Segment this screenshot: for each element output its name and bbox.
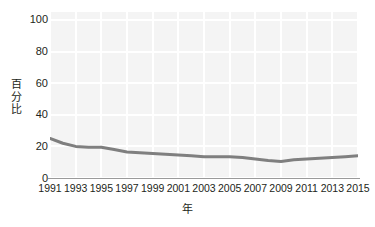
plot-area: [50, 12, 358, 178]
x-axis-line: [48, 178, 360, 179]
y-axis-title: 百 分 比: [8, 78, 24, 116]
x-tick-label: 2015: [343, 182, 373, 195]
x-axis-tick-labels: 1991199319951997199920012003200520072009…: [0, 182, 375, 196]
x-axis-title: 年: [0, 203, 375, 216]
y-tick-label: 80: [24, 46, 48, 57]
y-tick-label: 40: [24, 109, 48, 120]
series-line-percentage: [50, 138, 358, 161]
y-tick-label: 100: [24, 14, 48, 25]
line-chart-figure: 百 分 比 020406080100 199119931995199719992…: [0, 0, 375, 227]
y-tick-label: 20: [24, 141, 48, 152]
y-tick-label: 60: [24, 78, 48, 89]
data-series-layer: [50, 12, 358, 178]
